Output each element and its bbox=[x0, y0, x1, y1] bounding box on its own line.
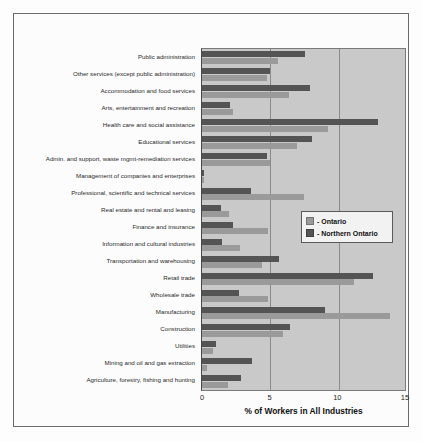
bar-group bbox=[202, 288, 405, 305]
bar-northern-ontario bbox=[202, 119, 378, 125]
legend-label-northern-ontario: - Northern Ontario bbox=[317, 230, 378, 237]
bar-northern-ontario bbox=[202, 273, 373, 279]
bar-group bbox=[202, 83, 405, 100]
bar-group bbox=[202, 66, 405, 83]
category-label: Retail trade bbox=[163, 274, 195, 282]
category-label: Agriculture, forestry, fishing and hunti… bbox=[86, 376, 195, 384]
bar-ontario bbox=[202, 279, 354, 285]
bar-chart: Public administrationOther services (exc… bbox=[0, 0, 422, 441]
bar-northern-ontario bbox=[202, 222, 233, 228]
legend-item-ontario: - Ontario bbox=[306, 215, 388, 227]
bar-ontario bbox=[202, 245, 240, 251]
bar-northern-ontario bbox=[202, 290, 239, 296]
bar-northern-ontario bbox=[202, 358, 252, 364]
category-label: Other services (except public administra… bbox=[73, 70, 195, 78]
category-label: Manufacturing bbox=[156, 308, 195, 316]
x-axis-title: % of Workers in All Industries bbox=[201, 406, 406, 416]
category-label: Transportation and warehousing bbox=[106, 257, 195, 265]
bar-group bbox=[202, 305, 405, 322]
bar-ontario bbox=[202, 75, 267, 81]
bar-group bbox=[202, 356, 405, 373]
bar-ontario bbox=[202, 194, 304, 200]
bar-ontario bbox=[202, 177, 204, 183]
bar-ontario bbox=[202, 211, 229, 217]
bar-ontario bbox=[202, 313, 390, 319]
legend-swatch-ontario bbox=[306, 217, 314, 225]
category-label: Real estate and rental and leasing bbox=[101, 206, 195, 214]
bar-ontario bbox=[202, 109, 233, 115]
bar-northern-ontario bbox=[202, 375, 241, 381]
bar-northern-ontario bbox=[202, 85, 310, 91]
bar-northern-ontario bbox=[202, 102, 230, 108]
bar-group bbox=[202, 254, 405, 271]
bar-group bbox=[202, 373, 405, 390]
bar-northern-ontario bbox=[202, 153, 267, 159]
category-label: Management of companies and enterprises bbox=[76, 172, 195, 180]
bar-northern-ontario bbox=[202, 188, 251, 194]
category-label: Mining and oil and gas extraction bbox=[105, 359, 195, 367]
bar-ontario bbox=[202, 365, 207, 371]
legend-label-ontario: - Ontario bbox=[317, 218, 346, 225]
category-label: Construction bbox=[160, 325, 195, 333]
bar-ontario bbox=[202, 262, 262, 268]
category-label: Arts, entertainment and recreation bbox=[101, 104, 195, 112]
x-tick-label: 0 bbox=[200, 393, 204, 402]
bar-northern-ontario bbox=[202, 239, 222, 245]
bar-group bbox=[202, 168, 405, 185]
legend-item-northern-ontario: - Northern Ontario bbox=[306, 227, 388, 239]
bar-ontario bbox=[202, 228, 268, 234]
bar-northern-ontario bbox=[202, 51, 305, 57]
bar-ontario bbox=[202, 331, 283, 337]
bar-northern-ontario bbox=[202, 307, 325, 313]
bar-group bbox=[202, 134, 405, 151]
legend-swatch-northern-ontario bbox=[306, 229, 314, 237]
category-label: Educational services bbox=[138, 138, 195, 146]
category-label: Health care and social assistance bbox=[103, 121, 195, 129]
bar-northern-ontario bbox=[202, 205, 221, 211]
category-label: Accommodation and food services bbox=[100, 87, 195, 95]
x-axis-ticks: 051015 bbox=[0, 393, 422, 407]
bar-ontario bbox=[202, 143, 297, 149]
bar-ontario bbox=[202, 160, 270, 166]
bar-ontario bbox=[202, 382, 228, 388]
bar-group bbox=[202, 151, 405, 168]
category-label: Information and cultural industries bbox=[102, 240, 195, 248]
bar-ontario bbox=[202, 126, 328, 132]
x-tick-label: 10 bbox=[333, 393, 341, 402]
bar-ontario bbox=[202, 58, 278, 64]
bar-northern-ontario bbox=[202, 256, 279, 262]
bar-northern-ontario bbox=[202, 324, 290, 330]
category-axis-labels: Public administrationOther services (exc… bbox=[0, 48, 199, 391]
bar-group bbox=[202, 117, 405, 134]
category-label: Wholesale trade bbox=[150, 291, 195, 299]
bar-northern-ontario bbox=[202, 136, 312, 142]
bar-ontario bbox=[202, 296, 268, 302]
category-label: Utilities bbox=[175, 342, 195, 350]
bar-group bbox=[202, 100, 405, 117]
x-tick-label: 5 bbox=[268, 393, 272, 402]
bar-ontario bbox=[202, 348, 213, 354]
category-label: Finance and insurance bbox=[132, 223, 195, 231]
x-tick-label: 15 bbox=[401, 393, 409, 402]
bar-group bbox=[202, 271, 405, 288]
bar-ontario bbox=[202, 92, 289, 98]
bar-northern-ontario bbox=[202, 170, 204, 176]
bar-group bbox=[202, 339, 405, 356]
bar-group bbox=[202, 185, 405, 202]
category-label: Admin. and support, waste mgmt-remediati… bbox=[46, 155, 195, 163]
bar-northern-ontario bbox=[202, 68, 270, 74]
category-label: Professional, scientific and technical s… bbox=[71, 189, 195, 197]
chart-page: Public administrationOther services (exc… bbox=[0, 0, 422, 441]
chart-legend: - Ontario - Northern Ontario bbox=[301, 211, 393, 243]
bar-group bbox=[202, 49, 405, 66]
bar-northern-ontario bbox=[202, 341, 216, 347]
category-label: Public administration bbox=[138, 53, 195, 61]
bar-group bbox=[202, 322, 405, 339]
